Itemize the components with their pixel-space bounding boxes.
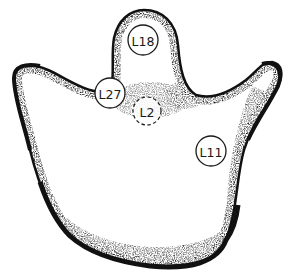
marker-l27-label: L27	[99, 87, 122, 102]
marker-l27: L27	[95, 78, 125, 108]
marker-l18: L18	[128, 25, 158, 55]
marker-l18-label: L18	[132, 34, 155, 49]
marker-l2-label: L2	[140, 105, 155, 120]
diagram-canvas: L18 L27 L2 L11	[0, 0, 293, 275]
marker-l11-label: L11	[200, 145, 223, 160]
marker-l11: L11	[196, 136, 226, 166]
marker-l2: L2	[133, 97, 161, 125]
